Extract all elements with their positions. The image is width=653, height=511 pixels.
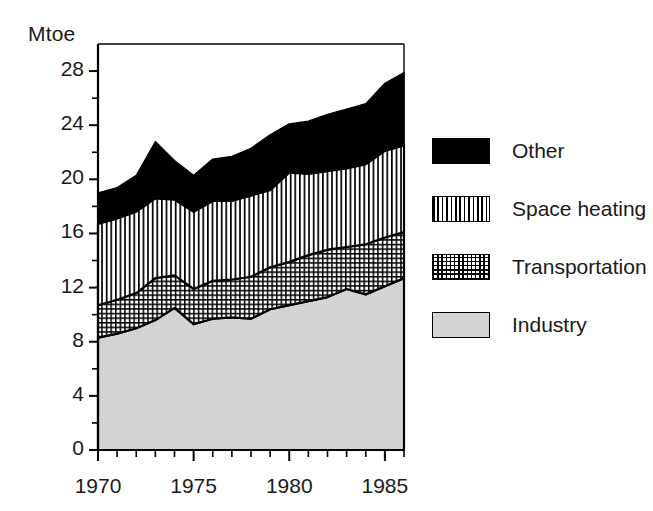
legend-label-space-heating: Space heating — [512, 197, 646, 221]
legend-swatch-transportation-icon — [432, 254, 490, 280]
legend-label-industry: Industry — [512, 313, 587, 337]
legend-swatch-other-icon — [432, 138, 490, 164]
chart-figure: Mtoe 2824201612840 1970197519801985 Othe… — [0, 0, 653, 511]
area-bands — [98, 72, 404, 450]
legend-item-industry[interactable]: Industry — [432, 296, 647, 354]
legend-label-other: Other — [512, 139, 565, 163]
legend-item-transportation[interactable]: Transportation — [432, 238, 647, 296]
chart-legend: Other Space heating Transportation Indus… — [432, 122, 647, 354]
legend-swatch-industry-icon — [432, 312, 490, 338]
legend-swatch-space-heating-icon — [432, 196, 490, 222]
legend-label-transportation: Transportation — [512, 255, 647, 279]
legend-item-other[interactable]: Other — [432, 122, 647, 180]
legend-item-space-heating[interactable]: Space heating — [432, 180, 647, 238]
